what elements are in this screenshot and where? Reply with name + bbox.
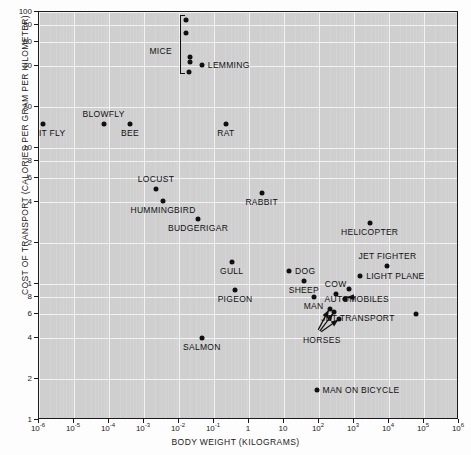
y-tick bbox=[34, 378, 38, 379]
data-point-label: MAN ON BICYCLE bbox=[323, 385, 400, 395]
gridline-vertical-minor bbox=[311, 12, 312, 418]
data-point-label: FRUIT FLY bbox=[38, 128, 65, 138]
data-point bbox=[314, 388, 319, 393]
x-tick bbox=[248, 419, 249, 423]
gridline-vertical-minor bbox=[308, 12, 309, 418]
gridline-vertical-minor bbox=[266, 12, 267, 418]
data-point bbox=[367, 221, 372, 226]
gridline-vertical-minor bbox=[133, 12, 134, 418]
data-point-label: RAT bbox=[217, 128, 234, 138]
data-point bbox=[187, 59, 192, 64]
gridline-vertical-minor bbox=[305, 12, 306, 418]
y-tick bbox=[34, 177, 38, 178]
data-point bbox=[301, 279, 306, 284]
gridline-vertical-minor bbox=[206, 12, 207, 418]
gridline-horizontal bbox=[39, 379, 457, 380]
data-point bbox=[287, 268, 292, 273]
group-label: HORSES bbox=[303, 335, 341, 345]
y-tick bbox=[34, 419, 38, 420]
mice-bracket bbox=[180, 15, 186, 74]
gridline-vertical-minor bbox=[136, 12, 137, 418]
y-tick-label: 1 bbox=[0, 415, 32, 424]
gridline-vertical-minor bbox=[244, 12, 245, 418]
data-point-label: HELICOPTER bbox=[341, 227, 398, 237]
x-tick-label: 105 bbox=[417, 424, 429, 433]
gridline-vertical-minor bbox=[66, 12, 67, 418]
gridline-vertical-minor bbox=[279, 12, 280, 418]
gridline-vertical-minor bbox=[378, 12, 379, 418]
data-point-label: HUMMINGBIRD bbox=[130, 205, 195, 215]
x-tick-label: 10-5 bbox=[66, 424, 80, 433]
x-tick bbox=[353, 419, 354, 423]
data-point bbox=[414, 312, 419, 317]
gridline-vertical-minor bbox=[273, 12, 274, 418]
gridline-vertical-minor bbox=[400, 12, 401, 418]
x-tick-label: 102 bbox=[312, 424, 324, 433]
y-tick bbox=[34, 65, 38, 66]
gridline-vertical-minor bbox=[340, 12, 341, 418]
data-point-label: BEE bbox=[121, 128, 139, 138]
y-tick bbox=[34, 337, 38, 338]
gridline-vertical-minor bbox=[346, 12, 347, 418]
data-point-label: LIGHT PLANE bbox=[366, 271, 424, 281]
gridline-horizontal bbox=[39, 284, 457, 285]
x-tick-label: 104 bbox=[382, 424, 394, 433]
gridline-vertical-minor bbox=[314, 12, 315, 418]
gridline-vertical bbox=[109, 12, 110, 418]
gridline-vertical-minor bbox=[384, 12, 385, 418]
data-point bbox=[229, 260, 234, 265]
data-point bbox=[153, 186, 158, 191]
gridline-vertical-minor bbox=[209, 12, 210, 418]
gridline-vertical-minor bbox=[120, 12, 121, 418]
bracket-stem bbox=[180, 15, 181, 74]
gridline-vertical-minor bbox=[101, 12, 102, 418]
gridline-vertical bbox=[144, 12, 145, 418]
gridline-vertical-minor bbox=[406, 12, 407, 418]
gridline-vertical-minor bbox=[161, 12, 162, 418]
gridline-horizontal bbox=[39, 161, 457, 162]
data-point bbox=[199, 62, 204, 67]
data-point-label: PIGEON bbox=[218, 294, 253, 304]
plot-area: FRUIT FLYBLOWFLYBEELOCUSTHUMMINGBIRDLEMM… bbox=[38, 11, 458, 419]
data-point bbox=[311, 295, 316, 300]
y-tick bbox=[34, 283, 38, 284]
gridline-vertical-minor bbox=[371, 12, 372, 418]
gridline-vertical bbox=[389, 12, 390, 418]
gridline-vertical-minor bbox=[139, 12, 140, 418]
x-tick bbox=[283, 419, 284, 423]
data-point bbox=[196, 217, 201, 222]
gridline-vertical-minor bbox=[457, 12, 458, 418]
data-point bbox=[161, 198, 166, 203]
x-tick-label: 10-1 bbox=[206, 424, 220, 433]
data-point bbox=[187, 54, 192, 59]
gridline-vertical-minor bbox=[375, 12, 376, 418]
gridline-vertical bbox=[319, 12, 320, 418]
gridline-vertical-minor bbox=[203, 12, 204, 418]
gridline-vertical-minor bbox=[301, 12, 302, 418]
gridline-horizontal bbox=[39, 178, 457, 179]
data-point bbox=[233, 288, 238, 293]
gridline-horizontal bbox=[39, 12, 457, 13]
gridline-vertical-minor bbox=[238, 12, 239, 418]
gridline-horizontal bbox=[39, 42, 457, 43]
gridline-vertical-minor bbox=[451, 12, 452, 418]
data-point bbox=[199, 336, 204, 341]
gridline-vertical-minor bbox=[419, 12, 420, 418]
data-point-label: GULL bbox=[220, 266, 243, 276]
data-point bbox=[358, 273, 363, 278]
gridline-vertical bbox=[39, 12, 40, 418]
data-point-label: RABBIT bbox=[245, 197, 278, 207]
gridline-vertical-minor bbox=[196, 12, 197, 418]
gridline-vertical-minor bbox=[241, 12, 242, 418]
gridline-vertical-minor bbox=[413, 12, 414, 418]
gridline-vertical-minor bbox=[60, 12, 61, 418]
gridline-vertical-minor bbox=[454, 12, 455, 418]
gridline-vertical-minor bbox=[235, 12, 236, 418]
gridline-vertical-minor bbox=[126, 12, 127, 418]
data-point bbox=[128, 122, 133, 127]
x-tick-label: 10-2 bbox=[171, 424, 185, 433]
x-tick bbox=[458, 419, 459, 423]
data-point bbox=[223, 122, 228, 127]
y-tick-label: 2 bbox=[0, 374, 32, 383]
gridline-vertical-minor bbox=[416, 12, 417, 418]
